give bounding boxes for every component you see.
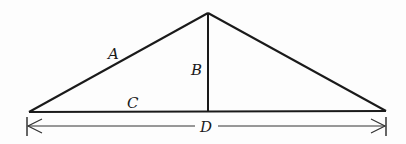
label-b: B <box>190 61 202 79</box>
triangle-diagram: A B C D <box>0 0 406 144</box>
label-a: A <box>106 45 119 63</box>
label-d: D <box>199 118 212 136</box>
side-right <box>208 13 386 111</box>
diagram-svg: A B C D <box>0 0 406 144</box>
label-c: C <box>127 94 139 112</box>
